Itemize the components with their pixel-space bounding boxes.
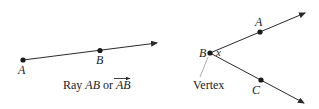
angle-diagram: A B x C Vertex: [193, 13, 305, 103]
point-a: [257, 29, 262, 34]
point-b-label: B: [96, 53, 104, 67]
ray-ab: [23, 43, 157, 60]
vertex-caption: Vertex: [193, 78, 224, 92]
caption-ray-notation: AB: [115, 78, 131, 92]
point-a: [20, 57, 25, 62]
vertex-leader-line: [200, 57, 208, 77]
caption-ray-name: AB: [84, 78, 100, 92]
caption-or: or: [100, 78, 116, 92]
geometry-figure: A B Ray AB or AB A B x C Vertex: [0, 0, 319, 109]
ray-caption: Ray AB or AB: [63, 78, 131, 92]
vertex-b-label: B: [199, 46, 207, 60]
caption-prefix: Ray: [63, 78, 85, 92]
ray-diagram: A B Ray AB or AB: [17, 43, 157, 92]
point-a-label: A: [17, 63, 26, 77]
point-c: [258, 77, 263, 82]
point-c-label: C: [252, 83, 261, 97]
angle-x-label: x: [215, 46, 221, 58]
vertex-point-b: [207, 50, 212, 55]
point-a-label: A: [254, 15, 263, 29]
